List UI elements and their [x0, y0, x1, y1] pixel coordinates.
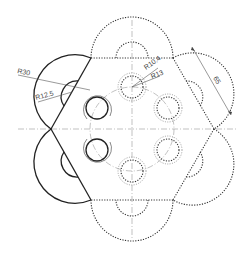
- hole-upper-right: [157, 97, 179, 119]
- dim-arrow-65-top: [191, 47, 195, 51]
- label-r13: R13: [150, 69, 165, 80]
- hole-upper-left: [86, 97, 108, 119]
- hex-edge-lower-right: [173, 129, 214, 200]
- dim-line-r30: [18, 75, 90, 90]
- hole-lower-left: [86, 139, 108, 161]
- hex-edge-upper-right: [173, 58, 214, 129]
- hole-upper-left-counterbore: [83, 96, 111, 119]
- label-r10-4: R10.4: [143, 54, 162, 71]
- lobe-upper-right-inner: [186, 81, 203, 106]
- hole-lower-right-counterbore: [154, 136, 182, 164]
- hex-edge-upper-left: [51, 58, 91, 129]
- hole-lower-left-counterbore: [83, 139, 111, 162]
- technical-drawing: R30 R12.5 R10.4 R13 65: [0, 0, 247, 261]
- hole-upper-right-counterbore: [154, 94, 182, 122]
- label-r12-5: R12.5: [34, 89, 54, 101]
- lobe-lower-right: [173, 129, 234, 205]
- label-65: 65: [212, 75, 222, 85]
- lobe-lower-right-inner: [186, 152, 203, 177]
- hex-edge-lower-left: [51, 129, 91, 200]
- lobe-upper-right: [173, 53, 234, 129]
- hole-lower-right: [157, 139, 179, 161]
